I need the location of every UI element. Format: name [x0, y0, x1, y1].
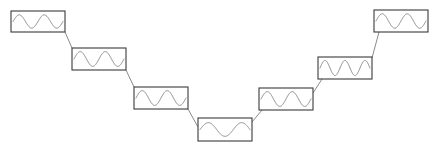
diagram-canvas: [0, 0, 438, 157]
link-node3-node4: [188, 109, 198, 127]
link-node1-node2: [65, 32, 72, 48]
link-node2-node3: [126, 70, 134, 87]
waveform-node-5[interactable]: [259, 88, 313, 110]
waveform-chain-diagram: [0, 0, 438, 157]
waveform-node-6[interactable]: [318, 57, 372, 79]
waveform-node-2[interactable]: [72, 48, 126, 70]
node-layer: [11, 10, 428, 141]
waveform-node-7[interactable]: [374, 10, 428, 32]
waveform-node-3[interactable]: [134, 87, 188, 109]
waveform-node-4[interactable]: [198, 118, 252, 141]
link-node4-node5: [252, 110, 262, 122]
waveform-node-1[interactable]: [11, 11, 65, 32]
waveform-node-4-border: [198, 118, 252, 141]
link-node5-node6: [313, 79, 322, 93]
link-node6-node7: [372, 32, 379, 58]
